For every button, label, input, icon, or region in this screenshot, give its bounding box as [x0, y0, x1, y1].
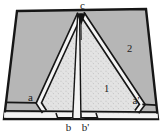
strip-top-edge-right	[142, 104, 156, 105]
label-region-1: 1	[104, 83, 109, 94]
paper-folding-diagram: c a a' b b' 1 2	[0, 0, 162, 135]
figure-canvas: c a a' b b' 1 2	[0, 0, 162, 135]
label-apex-c: c	[80, 0, 85, 11]
left-leg-bottom-outline	[56, 113, 73, 118]
label-point-b-prime: b'	[82, 121, 90, 133]
label-point-a: a	[28, 91, 33, 103]
right-leg-bottom-outline	[81, 113, 98, 118]
label-point-b: b	[66, 121, 72, 133]
label-region-2: 2	[127, 43, 132, 54]
label-point-a-prime: a'	[133, 94, 140, 106]
